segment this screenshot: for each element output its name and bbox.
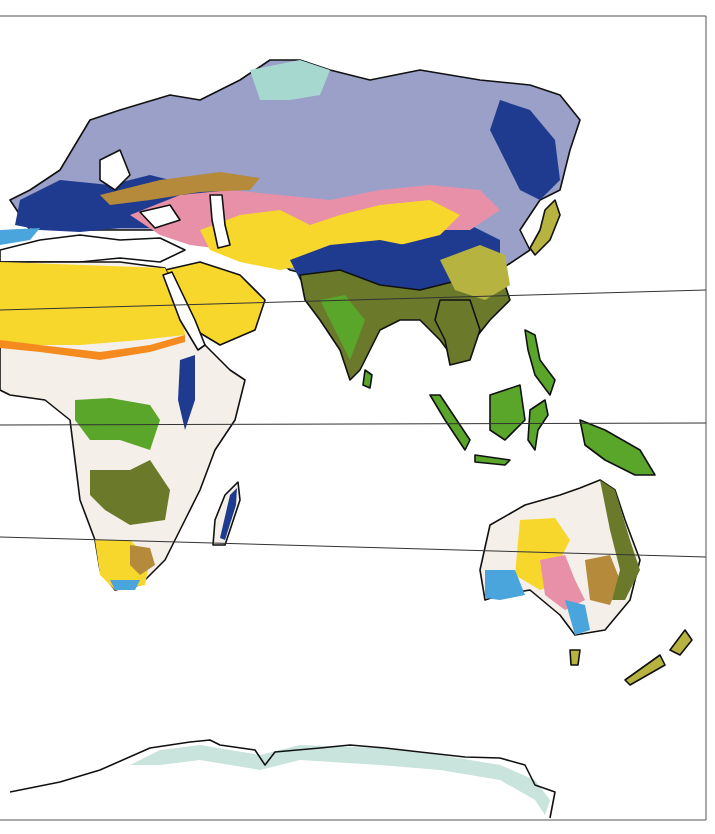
borneo [490,385,525,440]
antarctica-ice-fringe [130,745,550,815]
cape-mediterranean [110,580,140,590]
sri-lanka [363,370,372,388]
climate-map [0,0,715,834]
sulawesi [528,400,548,450]
tasmania [570,650,580,665]
new-guinea [580,420,655,475]
australia [480,480,640,635]
maritime-southeast-asia [430,300,655,475]
new-zealand-south [625,655,665,685]
java [475,455,510,465]
antarctica-coastline [10,740,555,818]
philippines [525,330,555,395]
indochina [435,300,480,365]
sumatra [430,395,470,450]
sahara-desert [0,262,185,345]
new-zealand-north [670,630,692,655]
